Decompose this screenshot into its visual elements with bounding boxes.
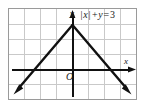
x-axis-label: x xyxy=(124,57,128,66)
origin-label: O xyxy=(66,72,73,82)
equation-label: |x|+y=3 xyxy=(80,10,115,20)
math-figure: y x O |x|+y=3 xyxy=(0,0,145,109)
y-axis-label: y xyxy=(70,9,74,18)
equation-value: 3 xyxy=(110,9,115,20)
equation-equals-sign: = xyxy=(103,9,110,20)
